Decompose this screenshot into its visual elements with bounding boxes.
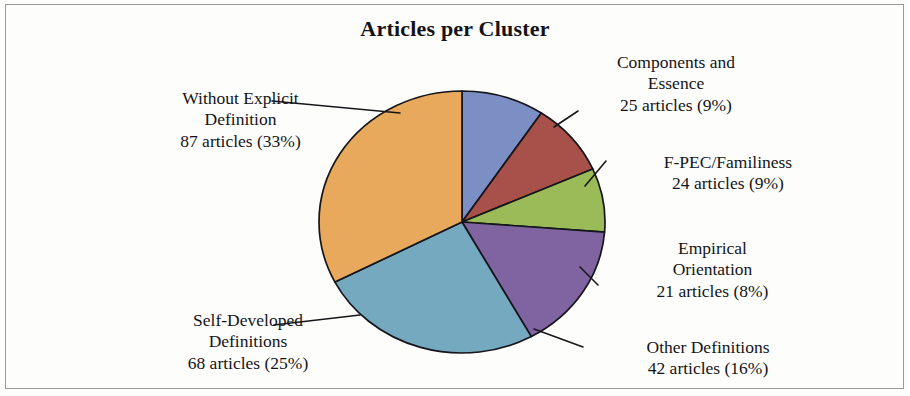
pie-label-without-explicit-value: 87 articles (33%)	[108, 131, 373, 152]
pie-label-components-value: 25 articles (9%)	[556, 95, 796, 116]
pie-label-empirical-name-line1: Empirical	[600, 238, 825, 259]
pie-label-empirical-name-line2: Orientation	[600, 259, 825, 280]
pie-label-components-name-line2: Essence	[556, 73, 796, 94]
pie-label-other-value: 42 articles (16%)	[588, 358, 828, 379]
chart-figure: Articles per Cluster Components and Esse…	[0, 0, 910, 396]
pie-label-self-developed-name-line1: Self-Developed	[118, 310, 378, 331]
pie-label-fpec-familiness: F-PEC/Familiness 24 articles (9%)	[608, 152, 848, 195]
pie-label-other-definitions: Other Definitions 42 articles (16%)	[588, 337, 828, 380]
pie-label-fpec-value: 24 articles (9%)	[608, 173, 848, 194]
pie-label-components-and-essence: Components and Essence 25 articles (9%)	[556, 52, 796, 116]
pie-label-without-explicit-name-line2: Definition	[108, 109, 373, 130]
pie-label-other-name: Other Definitions	[588, 337, 828, 358]
pie-label-self-developed-definitions: Self-Developed Definitions 68 articles (…	[118, 310, 378, 374]
pie-label-without-explicit-name-line1: Without Explicit	[108, 88, 373, 109]
pie-label-components-name-line1: Components and	[556, 52, 796, 73]
pie-label-without-explicit-definition: Without Explicit Definition 87 articles …	[108, 88, 373, 152]
pie-label-self-developed-name-line2: Definitions	[118, 331, 378, 352]
pie-label-empirical-value: 21 articles (8%)	[600, 281, 825, 302]
pie-label-fpec-name: F-PEC/Familiness	[608, 152, 848, 173]
pie-label-self-developed-value: 68 articles (25%)	[118, 353, 378, 374]
pie-label-empirical-orientation: Empirical Orientation 21 articles (8%)	[600, 238, 825, 302]
leader-line-other	[534, 329, 583, 347]
